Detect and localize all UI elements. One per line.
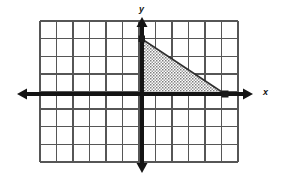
vertex-x-intercept-dot <box>222 91 229 98</box>
coordinate-plane-svg <box>0 0 283 177</box>
coordinate-plane-figure: x y <box>0 0 283 177</box>
x-axis-arrow-left <box>17 89 27 100</box>
x-axis-label: x <box>263 88 268 97</box>
x-axis-arrow-right <box>243 89 253 100</box>
y-axis-arrow-down <box>137 163 148 173</box>
vertex-y-intercept-dot <box>139 36 146 43</box>
y-axis-label: y <box>139 5 144 14</box>
